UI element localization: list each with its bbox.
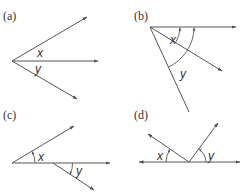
angle-x-label: x [169,33,177,47]
angle-x-label: x [37,150,45,164]
angle-x-arc [176,28,180,43]
panel-b: (b) x y [134,9,236,112]
panel-a-label: (a) [3,9,16,23]
angle-x-arc [32,152,35,164]
angle-y-label: y [75,164,83,178]
ray-upper-left [148,134,189,162]
angle-diagram: (a) x y (b) x y (c) x y (d) [0,0,249,195]
panel-c: (c) x y [3,108,110,190]
panel-b-label: (b) [134,9,148,23]
angle-x-arc [166,150,170,163]
ray-middle [150,27,222,71]
angle-x-label: x [156,149,164,163]
panel-c-label: (c) [3,108,16,122]
panel-d: (d) x y [134,108,240,163]
angle-y-label: y [34,62,42,76]
angle-y-label: y [179,67,187,81]
ray-lower [53,163,94,190]
panel-a: (a) x y [3,9,98,99]
angle-y-arc [70,163,73,174]
ray-upper [12,17,87,61]
angle-x-label: x [36,46,44,60]
panel-d-label: (d) [134,108,148,122]
angle-y-arc [199,149,206,162]
angle-y-label: y [207,149,215,163]
ray-lower [12,61,77,99]
